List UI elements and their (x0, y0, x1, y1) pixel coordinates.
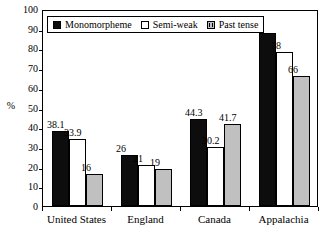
bar-past[interactable] (224, 124, 241, 206)
bar-value-label: 33.9 (64, 128, 93, 138)
y-axis-tick-mark (39, 50, 43, 51)
y-axis-tick-label: 50 (16, 104, 38, 114)
y-axis-tick-label: 40 (16, 123, 38, 133)
x-axis-tick-mark (42, 207, 43, 211)
gray-square-icon (207, 21, 215, 29)
plot-area: 38.133.91626211944.330.241.7887866 (43, 11, 317, 206)
bar-mono[interactable] (259, 33, 276, 206)
y-axis-tick-mark (39, 110, 43, 111)
y-axis-tick-mark (39, 70, 43, 71)
bar-value-label: 16 (81, 163, 110, 173)
y-axis-tick-mark (39, 188, 43, 189)
x-axis-tick-mark (180, 207, 181, 211)
bar-past[interactable] (155, 169, 172, 206)
y-axis-tick-label: 100 (16, 5, 38, 15)
y-axis-tick-label: 90 (16, 25, 38, 35)
x-axis-category-label: England (111, 213, 180, 225)
bar-semi[interactable] (276, 52, 293, 206)
bar-past[interactable] (293, 76, 310, 206)
x-axis-category-label: Canada (180, 213, 249, 225)
bar-group: 38.133.916 (52, 11, 103, 206)
x-axis-tick-mark (249, 207, 250, 211)
y-axis-tick-mark (39, 129, 43, 130)
y-axis-tick-mark (39, 169, 43, 170)
y-axis-tick-label: 60 (16, 84, 38, 94)
x-axis-tick-mark (111, 207, 112, 211)
bar-chart: % 1009080706050403020100 38.133.91626211… (0, 0, 333, 242)
black-square-icon (53, 21, 61, 29)
y-axis-tick-label: 30 (16, 143, 38, 153)
bar-semi[interactable] (207, 147, 224, 206)
y-axis-tick-mark (39, 31, 43, 32)
bar-group: 887866 (259, 11, 310, 206)
chart-legend: MonomorphemeSemi-weakPast tense (47, 16, 264, 33)
legend-entry[interactable]: Semi-weak (141, 20, 198, 30)
y-axis-tick-label: 20 (16, 163, 38, 173)
bar-mono[interactable] (52, 131, 69, 206)
x-axis-category-label: United States (42, 213, 111, 225)
x-axis-category-label: Appalachia (249, 213, 318, 225)
bar-mono[interactable] (190, 119, 207, 206)
legend-entry[interactable]: Monomorpheme (53, 20, 132, 30)
white-square-icon (141, 21, 149, 29)
y-axis-tick-mark (39, 90, 43, 91)
y-axis-tick-label: 10 (16, 182, 38, 192)
legend-label: Monomorpheme (65, 20, 132, 30)
y-axis-tick-labels: 1009080706050403020100 (16, 0, 38, 242)
plot-frame: 38.133.91626211944.330.241.7887866 (42, 10, 318, 207)
bar-value-label: 44.3 (185, 108, 214, 118)
bar-past[interactable] (86, 174, 103, 206)
y-axis-tick-label: 70 (16, 64, 38, 74)
legend-entry[interactable]: Past tense (207, 20, 259, 30)
legend-label: Semi-weak (153, 20, 198, 30)
bar-value-label: 19 (150, 158, 179, 168)
bar-group: 44.330.241.7 (190, 11, 241, 206)
bar-group: 262119 (121, 11, 172, 206)
bar-semi[interactable] (138, 165, 155, 206)
bar-value-label: 66 (288, 65, 317, 75)
y-axis-tick-mark (39, 149, 43, 150)
bar-value-label: 41.7 (219, 113, 248, 123)
y-axis-tick-label: 0 (16, 202, 38, 212)
x-axis-tick-mark (318, 207, 319, 211)
legend-label: Past tense (219, 20, 259, 30)
y-axis-tick-label: 80 (16, 44, 38, 54)
bar-value-label: 78 (271, 41, 300, 51)
